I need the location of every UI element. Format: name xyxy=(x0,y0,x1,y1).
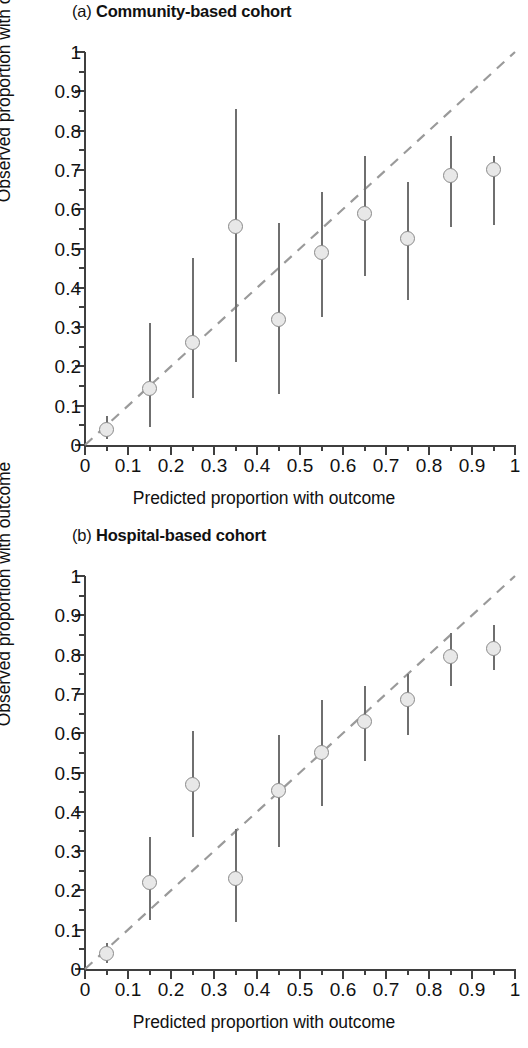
x-tick-major xyxy=(342,969,344,979)
x-tick-minor xyxy=(235,969,237,975)
y-tick-label: 0.4 xyxy=(55,802,81,821)
y-tick-label: 1 xyxy=(70,43,81,62)
y-tick-label: 1 xyxy=(70,567,81,586)
x-tick-label: 0.6 xyxy=(330,456,356,475)
x-tick-label: 0.2 xyxy=(158,980,184,999)
x-tick-label: 1 xyxy=(510,456,521,475)
x-tick-minor xyxy=(364,969,366,975)
y-tick-label: 0.2 xyxy=(55,357,81,376)
x-tick-minor xyxy=(192,969,194,975)
x-tick-minor xyxy=(364,445,366,451)
x-tick-label: 0.7 xyxy=(373,980,399,999)
x-tick-major xyxy=(299,445,301,455)
x-tick-minor xyxy=(149,969,151,975)
panel-hospital-based-cohort: (b) Hospital-based cohort 00.10.20.30.40… xyxy=(0,524,528,1048)
x-tick-minor xyxy=(450,969,452,975)
x-tick-label: 0 xyxy=(80,980,91,999)
y-tick-label: 0.8 xyxy=(55,645,81,664)
y-tick-label: 0 xyxy=(70,960,81,979)
data-point-marker xyxy=(142,381,157,396)
y-tick-label: 0.6 xyxy=(55,200,81,219)
x-tick-major xyxy=(342,445,344,455)
x-tick-label: 0.5 xyxy=(287,980,313,999)
x-tick-major xyxy=(471,969,473,979)
y-tick-label: 0.9 xyxy=(55,82,81,101)
x-tick-label: 0.1 xyxy=(115,456,141,475)
calibration-figure: (a) Community-based cohort 00.10.20.30.4… xyxy=(0,0,528,1048)
x-tick-major xyxy=(385,445,387,455)
x-tick-major xyxy=(127,445,129,455)
x-tick-major xyxy=(471,445,473,455)
x-tick-minor xyxy=(493,445,495,451)
y-tick-label: 0.8 xyxy=(55,121,81,140)
y-axis-title-b: Observed proportion with outcome xyxy=(0,414,15,774)
x-tick-major xyxy=(213,969,215,979)
y-tick-label: 0 xyxy=(70,436,81,455)
panel-b-name: Hospital-based cohort xyxy=(96,526,266,544)
y-tick-label: 0.5 xyxy=(55,239,81,258)
error-bar xyxy=(192,258,194,398)
x-tick-minor xyxy=(493,969,495,975)
x-tick-minor xyxy=(450,445,452,451)
data-point-marker xyxy=(99,946,114,961)
error-bar xyxy=(235,109,237,362)
x-tick-major xyxy=(428,445,430,455)
x-tick-major xyxy=(213,445,215,455)
x-tick-minor xyxy=(278,969,280,975)
y-tick-label: 0.5 xyxy=(55,763,81,782)
x-tick-minor xyxy=(407,969,409,975)
x-tick-major xyxy=(84,445,86,455)
data-point-marker xyxy=(314,245,329,260)
x-axis-title-b: Predicted proportion with outcome xyxy=(0,1012,528,1033)
y-tick-label: 0.3 xyxy=(55,318,81,337)
x-tick-minor xyxy=(192,445,194,451)
panel-a-tag: (a) xyxy=(72,2,92,20)
x-tick-minor xyxy=(321,969,323,975)
x-tick-major xyxy=(385,969,387,979)
panel-b-title: (b) Hospital-based cohort xyxy=(72,526,266,545)
y-axis-title-a: Observed proportion with outcome xyxy=(0,0,15,250)
x-tick-label: 0.7 xyxy=(373,456,399,475)
y-tick-label: 0.1 xyxy=(55,920,81,939)
panel-a-title: (a) Community-based cohort xyxy=(72,2,291,21)
x-tick-minor xyxy=(106,445,108,451)
data-point-marker xyxy=(99,422,114,437)
plot-area-b: 00.10.20.30.40.50.60.70.80.91 00.10.20.3… xyxy=(85,576,515,969)
x-tick-label: 0.4 xyxy=(244,980,270,999)
x-tick-label: 0.1 xyxy=(115,980,141,999)
x-tick-major xyxy=(84,969,86,979)
x-tick-label: 0.6 xyxy=(330,980,356,999)
data-point-marker xyxy=(185,777,200,792)
x-tick-major xyxy=(514,445,516,455)
y-tick-label: 0.7 xyxy=(55,160,81,179)
y-tick-label: 0.4 xyxy=(55,278,81,297)
x-tick-major xyxy=(428,969,430,979)
x-tick-label: 0.4 xyxy=(244,456,270,475)
x-tick-label: 1 xyxy=(510,980,521,999)
x-tick-label: 0.8 xyxy=(416,456,442,475)
y-tick-label: 0.6 xyxy=(55,724,81,743)
x-tick-minor xyxy=(235,445,237,451)
data-point-marker xyxy=(443,649,458,664)
y-tick-label: 0.3 xyxy=(55,842,81,861)
data-point-marker xyxy=(271,783,286,798)
panel-a-name: Community-based cohort xyxy=(96,2,291,20)
x-tick-label: 0 xyxy=(80,456,91,475)
data-point-marker xyxy=(271,312,286,327)
x-tick-major xyxy=(127,969,129,979)
x-tick-label: 0.2 xyxy=(158,456,184,475)
panel-b-tag: (b) xyxy=(72,526,92,544)
x-tick-minor xyxy=(407,445,409,451)
y-tick-label: 0.2 xyxy=(55,881,81,900)
error-bar xyxy=(278,223,280,394)
plot-area-a: 00.10.20.30.40.50.60.70.80.91 00.10.20.3… xyxy=(85,52,515,445)
x-tick-label: 0.9 xyxy=(459,980,485,999)
x-tick-minor xyxy=(278,445,280,451)
x-tick-label: 0.5 xyxy=(287,456,313,475)
data-point-marker xyxy=(142,875,157,890)
x-tick-label: 0.8 xyxy=(416,980,442,999)
data-point-marker xyxy=(357,714,372,729)
x-tick-major xyxy=(256,445,258,455)
x-tick-minor xyxy=(106,969,108,975)
x-tick-label: 0.3 xyxy=(201,456,227,475)
